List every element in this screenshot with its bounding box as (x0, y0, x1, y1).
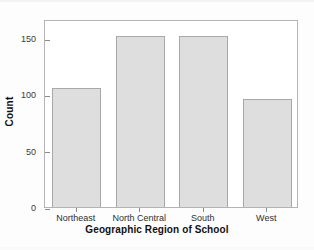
y-axis-tick-label: 0 (31, 204, 36, 213)
x-axis-tick (139, 208, 140, 212)
bar-chart-figure: Count 050100150 NortheastNorth CentralSo… (0, 0, 314, 250)
y-axis-tick-label: 150 (21, 35, 36, 44)
y-axis-tick-label: 50 (26, 148, 36, 157)
y-axis-tick (45, 152, 50, 153)
x-axis-tick (266, 208, 267, 212)
bar (243, 99, 292, 207)
x-axis-tick-label: West (235, 213, 299, 223)
x-axis-title: Geographic Region of School (0, 224, 314, 235)
y-axis-tick-label: 100 (21, 91, 36, 100)
scan-artifact-top (0, 0, 314, 2)
x-axis-tick-label: Northeast (44, 213, 108, 223)
x-axis-tick (76, 208, 77, 212)
bar (179, 36, 228, 207)
x-axis-tick-label: South (171, 213, 235, 223)
y-axis-tick (45, 40, 50, 41)
y-axis: Count 050100150 (0, 20, 44, 208)
y-axis-tick (45, 96, 50, 97)
y-axis-title: Count (4, 89, 15, 135)
x-axis-tick-label: North Central (108, 213, 172, 223)
bar (52, 88, 101, 207)
bar (116, 36, 165, 207)
x-axis-tick (203, 208, 204, 212)
plot-area (44, 20, 298, 208)
